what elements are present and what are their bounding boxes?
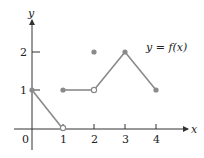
filled-point	[153, 87, 158, 92]
filled-point	[122, 49, 127, 54]
x-tick-label-4: 4	[153, 133, 160, 146]
y-tick-label-1: 1	[20, 84, 27, 97]
x-tick-label-2: 2	[91, 133, 98, 146]
x-tick-label-3: 3	[122, 133, 129, 146]
open-point	[91, 87, 96, 92]
data-points	[29, 49, 158, 130]
x-axis-label: x	[191, 123, 198, 136]
y-tick-label-2: 2	[20, 46, 27, 59]
x-ticks	[63, 124, 156, 129]
y-ticks	[32, 52, 40, 90]
filled-point	[29, 87, 34, 92]
function-graph: 0 1 2 3 4 1 2 x y y = f(x)	[0, 0, 204, 158]
filled-point	[60, 87, 65, 92]
x-tick-label-0: 0	[22, 133, 29, 146]
open-point	[60, 125, 65, 130]
filled-point	[91, 49, 96, 54]
function-label: y = f(x)	[145, 41, 187, 54]
x-tick-label-1: 1	[60, 133, 67, 146]
y-axis-label: y	[27, 7, 35, 20]
